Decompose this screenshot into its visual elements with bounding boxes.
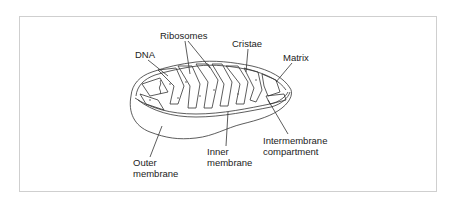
label-cristae: Cristae [232,38,262,49]
leader-outer [150,126,162,157]
label-inner-membrane: Inner membrane [207,146,252,168]
label-outer-line2: membrane [133,168,178,179]
crista-10 [266,94,286,104]
label-inner-line2: membrane [207,157,252,168]
label-inner-line1: Inner [207,146,252,157]
label-intermembrane-line1: Intermembrane [263,135,327,146]
mitochondrion-illustration [0,0,453,206]
crista-8 [244,68,262,102]
dna-strand [159,80,161,94]
label-ribosomes: Ribosomes [160,30,208,41]
label-outer-membrane: Outer membrane [133,157,178,179]
label-matrix: Matrix [283,52,309,63]
crista-3 [158,68,184,104]
label-intermembrane-compartment: Intermembrane compartment [263,135,327,157]
crista-4 [178,66,200,108]
label-outer-line1: Outer [133,157,178,168]
label-intermembrane-line2: compartment [263,146,327,157]
crista-2 [140,94,164,110]
leader-matrix [276,63,292,82]
leader-ribosomes-1 [185,41,190,74]
crista-1 [142,78,168,96]
label-dna: DNA [135,49,155,60]
